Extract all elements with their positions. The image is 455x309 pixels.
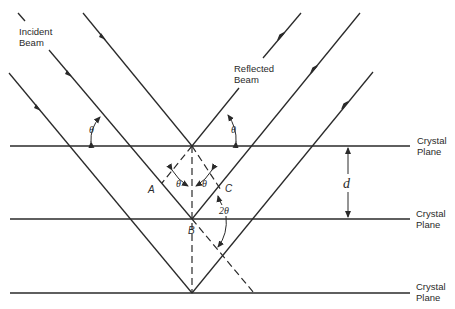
reflected-beams: [192, 13, 373, 293]
arrow-icon: [278, 33, 284, 40]
angle-markers: [91, 115, 348, 247]
incident-beams: [9, 13, 192, 293]
spacing-d-label: d: [343, 176, 351, 191]
crystal-plane-1-label: Crystal: [417, 135, 447, 146]
crystal-plane-2-label: Crystal: [416, 208, 446, 219]
crystal-plane-1-label-2: Plane: [417, 146, 441, 157]
reflected-beam-label-2: Beam: [234, 74, 259, 85]
incident-beam-label: Incident: [19, 26, 53, 37]
labels: Incident Beam Reflected Beam θ θ θ θ 2θ …: [19, 26, 447, 303]
crystal-plane-3-label: Crystal: [416, 281, 446, 292]
theta-label-inner-left: θ: [176, 178, 181, 189]
two-theta-arc-lower: [218, 216, 226, 247]
theta-label-inner-right: θ: [202, 178, 207, 189]
point-c-label: C: [225, 183, 233, 194]
theta-label-left: θ: [89, 124, 94, 135]
crystal-plane-3-label-2: Plane: [416, 292, 440, 303]
arrow-icon: [311, 66, 317, 73]
reflected-beam-label: Reflected: [234, 63, 274, 74]
arrow-icon: [342, 102, 348, 109]
incident-ray-1: [83, 13, 192, 146]
reflected-ray-1a: [192, 88, 239, 146]
two-theta-label: 2θ: [219, 205, 229, 216]
point-b-label: B: [188, 225, 195, 236]
reflected-ray-2: [192, 13, 360, 219]
crystal-plane-2-label-2: Plane: [416, 219, 440, 230]
incident-beam-label-2: Beam: [19, 37, 44, 48]
two-theta-arc-upper: [218, 196, 222, 205]
bragg-diagram: Incident Beam Reflected Beam θ θ θ θ 2θ …: [0, 0, 455, 309]
theta-label-right: θ: [231, 124, 236, 135]
point-a-label: A: [147, 184, 155, 195]
incident-tick: [18, 13, 25, 21]
